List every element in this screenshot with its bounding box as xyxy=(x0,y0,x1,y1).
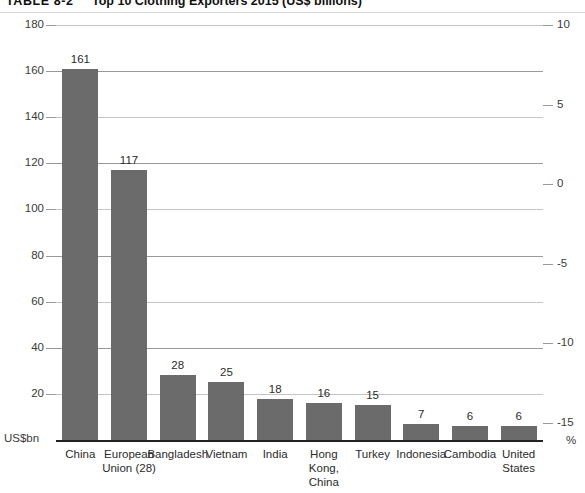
x-axis-category-label-line: Hong Kong, xyxy=(309,448,339,474)
x-axis-category-label-line: United xyxy=(502,448,535,460)
x-axis-category-label-line: Turkey xyxy=(355,448,390,460)
y-axis-tick-left xyxy=(46,302,56,303)
y-axis-tick-right xyxy=(543,264,553,265)
table-number: TABLE 8-2 xyxy=(6,0,74,8)
y-axis-tick-left xyxy=(46,117,56,118)
bar-value-label: 7 xyxy=(397,408,446,420)
y-axis-tick-label-left: 80 xyxy=(4,249,44,261)
y-axis-tick-label-right: -10 xyxy=(557,336,585,348)
bar-value-label: 117 xyxy=(105,154,154,166)
bar-value-label: 161 xyxy=(56,53,105,65)
bar-value-label: 6 xyxy=(494,410,543,422)
bar[interactable] xyxy=(111,170,147,440)
right-axis-unit-label: % xyxy=(566,434,576,446)
bar-value-label: 18 xyxy=(251,383,300,395)
y-axis-tick-left xyxy=(46,394,56,395)
x-axis-category-label-line: Union (28) xyxy=(99,461,160,475)
table-caption: TABLE 8-2 Top 10 Clothing Exporters 2015… xyxy=(0,0,585,12)
y-axis-tick-label-right: 5 xyxy=(557,98,585,110)
table-title: Top 10 Clothing Exporters 2015 (US$ bill… xyxy=(92,0,362,8)
gridline xyxy=(56,71,543,72)
y-axis-tick-label-left: 160 xyxy=(4,64,44,76)
bar-value-label: 25 xyxy=(202,366,251,378)
bar-value-label: 6 xyxy=(446,410,495,422)
bar[interactable] xyxy=(355,405,391,440)
y-axis-tick-left xyxy=(46,256,56,257)
y-axis-tick-right xyxy=(543,105,553,106)
y-axis-tick-label-left: 180 xyxy=(4,18,44,30)
x-axis-category-label-line: China xyxy=(65,448,95,460)
y-axis-tick-label-right: 10 xyxy=(557,18,585,30)
bar[interactable] xyxy=(62,69,98,440)
y-axis-tick-label-right: 0 xyxy=(557,177,585,189)
y-axis-tick-label-left: 100 xyxy=(4,202,44,214)
y-axis-tick-left xyxy=(46,25,56,26)
bar-value-label: 28 xyxy=(153,359,202,371)
bar[interactable] xyxy=(452,426,488,440)
gridline xyxy=(56,25,543,26)
y-axis-tick-left xyxy=(46,163,56,164)
y-axis-tick-label-left: 40 xyxy=(4,341,44,353)
x-axis-category-label: United States xyxy=(488,447,549,475)
y-axis-tick-label-left: 20 xyxy=(4,387,44,399)
bar-value-label: 15 xyxy=(348,389,397,401)
bar-value-label: 16 xyxy=(300,387,349,399)
y-axis-tick-left xyxy=(46,348,56,349)
y-axis-tick-right xyxy=(543,25,553,26)
x-axis-category-label-line: Vietnam xyxy=(205,448,247,460)
x-axis-baseline xyxy=(56,440,543,442)
y-axis-tick-right xyxy=(543,343,553,344)
y-axis-tick-right xyxy=(543,423,553,424)
bar[interactable] xyxy=(160,375,196,440)
y-axis-tick-label-right: -5 xyxy=(557,257,585,269)
bar[interactable] xyxy=(403,424,439,440)
x-axis-category-label-line: China xyxy=(294,475,355,489)
y-axis-tick-right xyxy=(543,184,553,185)
y-axis-tick-label-left: 140 xyxy=(4,110,44,122)
y-axis-tick-label-left: 120 xyxy=(4,156,44,168)
bar[interactable] xyxy=(501,426,537,440)
y-axis-tick-label-left: 60 xyxy=(4,295,44,307)
y-axis-tick-left xyxy=(46,209,56,210)
y-axis-tick-left xyxy=(46,71,56,72)
bar[interactable] xyxy=(257,399,293,441)
caption-divider xyxy=(0,12,585,13)
y-axis-tick-label-right: -15 xyxy=(557,416,585,428)
gridline xyxy=(56,117,543,118)
bar[interactable] xyxy=(208,382,244,440)
x-axis-category-label-line: States xyxy=(488,461,549,475)
x-axis-category-label-line: India xyxy=(263,448,288,460)
bar[interactable] xyxy=(306,403,342,440)
left-axis-unit-label: US$bn xyxy=(4,432,39,444)
